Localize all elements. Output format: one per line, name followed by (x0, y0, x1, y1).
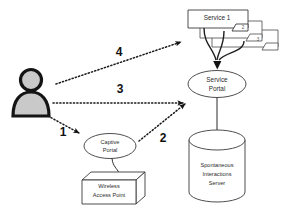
wireless-ap-node[interactable]: Wireless Access Point (82, 172, 145, 204)
service-portal-label-line1: Service (206, 76, 228, 83)
step-4-arrow: 4 (56, 42, 181, 84)
captive-portal-label-line1: Captive (101, 139, 120, 145)
step-3-arrow: 3 (53, 82, 183, 103)
si-server-label-line2: Interactions (203, 171, 232, 177)
captive-portal-node[interactable]: Captive Portal (84, 134, 136, 159)
service-box-1[interactable]: Service 1 (188, 10, 248, 31)
step-3-number: 3 (117, 82, 124, 96)
step-4-number: 4 (116, 45, 123, 59)
service-portal-node[interactable]: Service Portal (188, 71, 246, 98)
service-box-3-badge: 3 (257, 37, 260, 42)
captive-ap-link (112, 159, 119, 174)
service-to-portal-arrowhead (213, 61, 221, 70)
service-stack: Service 1 2 3 (188, 10, 278, 50)
step-2-number: 2 (160, 131, 167, 145)
service-portal-label-line2: Portal (209, 85, 226, 92)
wireless-ap-label-line2: Access Point (93, 192, 126, 198)
user-actor-icon[interactable] (13, 70, 49, 117)
step-1-arrow: 1 (48, 116, 79, 139)
captive-portal-label-line2: Portal (103, 147, 118, 153)
si-server-label-line3: Server (209, 180, 226, 186)
wireless-ap-label-line1: Wireless (98, 183, 120, 189)
si-server-label-line1: Spontaneous (201, 162, 234, 168)
step-1-number: 1 (60, 125, 67, 139)
diagram-canvas: Service 1 2 3 Service Portal Spontaneous (0, 0, 284, 216)
si-server-node[interactable]: Spontaneous Interactions Server (189, 130, 245, 202)
step-2-arrow: 2 (139, 104, 185, 145)
service-box-2-badge: 2 (242, 25, 245, 30)
service-1-label: Service 1 (204, 14, 231, 21)
